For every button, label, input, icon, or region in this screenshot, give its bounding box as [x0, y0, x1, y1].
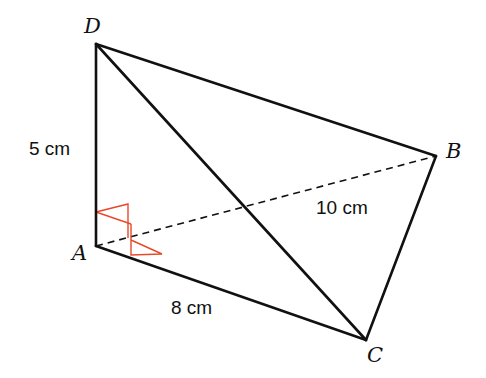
vertex-label-c: C: [367, 343, 383, 367]
edge-ac: [96, 246, 366, 340]
length-label-ab: 10 cm: [316, 197, 368, 218]
vertex-label-d: D: [83, 14, 101, 38]
edge-ab: [96, 156, 436, 246]
right-angle-mark-dac: [131, 224, 162, 255]
tetrahedron-diagram: D B C A 5 cm 10 cm 8 cm: [0, 0, 486, 378]
vertex-label-b: B: [445, 139, 461, 163]
vertex-label-a: A: [70, 241, 87, 265]
length-label-ac: 8 cm: [171, 297, 212, 318]
right-angle-marks: [96, 204, 162, 255]
edge-bc: [366, 156, 436, 340]
length-label-ad: 5 cm: [29, 138, 70, 159]
